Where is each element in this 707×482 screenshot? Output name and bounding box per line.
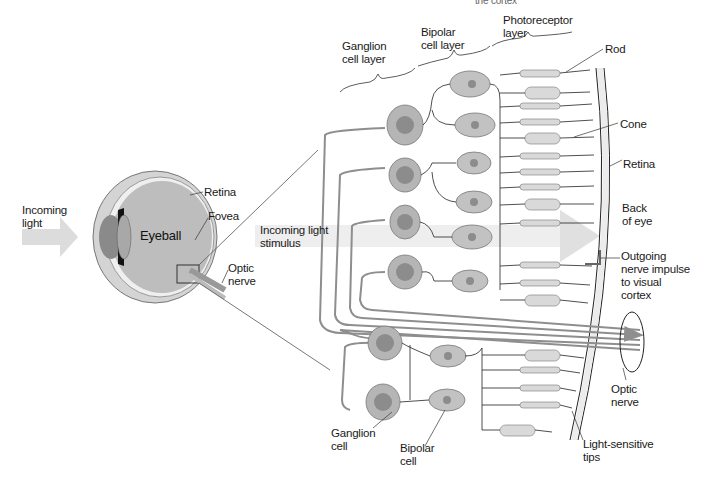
label-optic-nerve-detail: Optic nerve bbox=[611, 383, 639, 409]
photoreceptors bbox=[500, 70, 560, 436]
label-retina-detail: Retina bbox=[623, 158, 655, 171]
optic-nerve-ring bbox=[620, 312, 644, 380]
retina-diagram: the cortex Ganglion cell layer Bipolar c… bbox=[0, 0, 707, 482]
label-incoming-light-stimulus: Incoming light stimulus bbox=[260, 224, 328, 250]
label-fovea: Fovea bbox=[208, 210, 239, 223]
label-light-sensitive-tips: Light-sensitive tips bbox=[583, 438, 654, 464]
label-ganglion-cell: Ganglion cell bbox=[331, 427, 375, 453]
retina-band bbox=[570, 68, 610, 440]
cutoff-caption: the cortex bbox=[475, 0, 517, 7]
label-eyeball: Eyeball bbox=[140, 229, 181, 242]
label-photoreceptor-layer: Photoreceptor layer bbox=[503, 14, 573, 40]
diagram-artwork bbox=[0, 0, 707, 482]
label-retina-eye: Retina bbox=[204, 186, 236, 199]
label-outgoing-nerve-impulse: Outgoing nerve impulse to visual cortex bbox=[621, 250, 690, 302]
label-bipolar-cell-layer: Bipolar cell layer bbox=[421, 26, 464, 52]
label-rod: Rod bbox=[605, 43, 626, 56]
eyeball-illustration bbox=[93, 150, 330, 370]
ganglion-cells bbox=[366, 105, 423, 420]
label-incoming-light: Incoming light bbox=[22, 204, 67, 230]
label-bipolar-cell: Bipolar cell bbox=[400, 442, 434, 468]
label-cone: Cone bbox=[620, 118, 647, 131]
label-ganglion-cell-layer: Ganglion cell layer bbox=[342, 40, 386, 66]
label-back-of-eye: Back of eye bbox=[622, 202, 652, 228]
label-optic-nerve-eye: Optic nerve bbox=[228, 262, 256, 288]
